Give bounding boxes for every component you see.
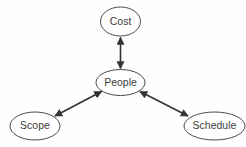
- edge-people-schedule: [140, 92, 188, 117]
- node-schedule-label: Schedule: [193, 119, 237, 131]
- edge-people-scope: [55, 92, 102, 117]
- node-scope-label: Scope: [20, 119, 50, 131]
- node-schedule[interactable]: Schedule: [184, 112, 245, 140]
- node-cost[interactable]: Cost: [101, 7, 141, 36]
- node-people-label: People: [104, 76, 137, 88]
- node-people[interactable]: People: [96, 70, 145, 96]
- diagram-canvas: Cost People Scope Schedule: [0, 0, 246, 147]
- node-scope[interactable]: Scope: [10, 112, 60, 140]
- node-cost-label: Cost: [110, 15, 132, 27]
- diagram-svg: Cost People Scope Schedule: [0, 0, 246, 147]
